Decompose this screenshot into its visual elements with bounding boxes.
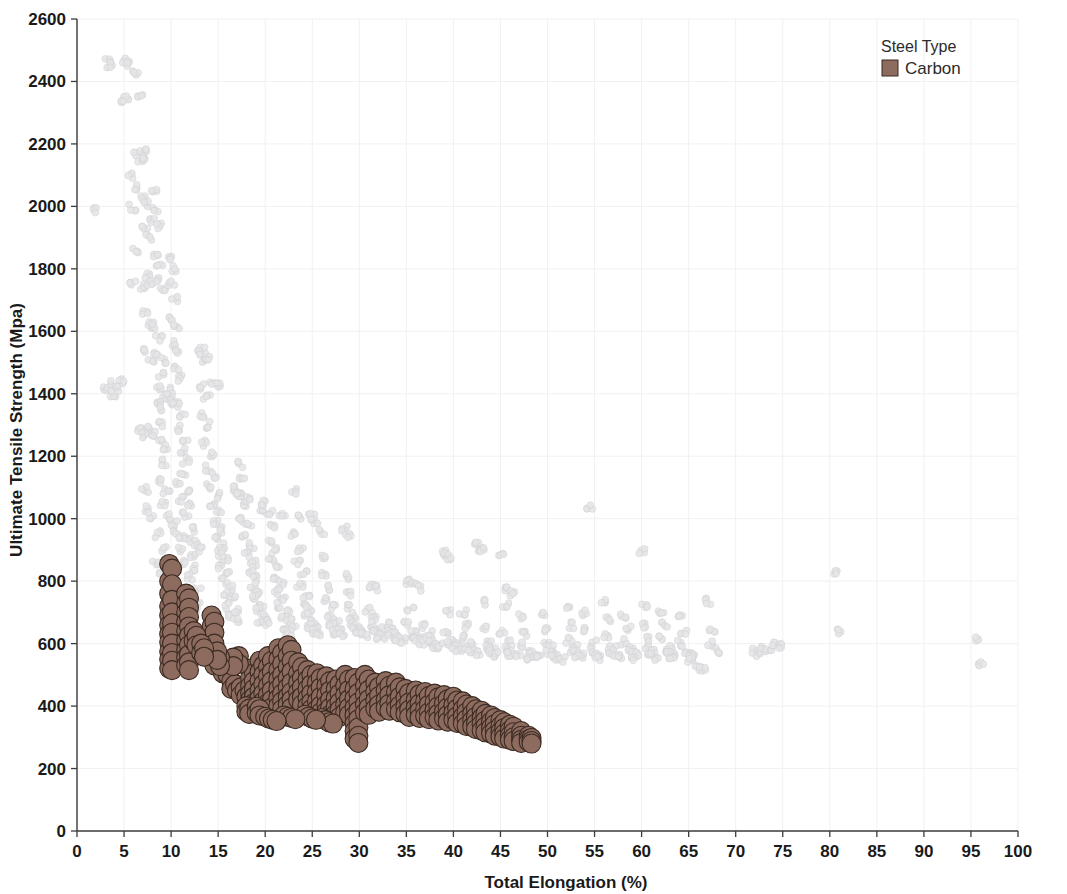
x-tick-label: 50 <box>538 842 557 861</box>
x-tick-label: 75 <box>773 842 792 861</box>
y-tick-label: 1200 <box>28 447 66 466</box>
x-tick-label: 40 <box>444 842 463 861</box>
y-tick-label: 600 <box>38 635 66 654</box>
plot-canvas: 0200400600800100012001400160018002000220… <box>0 0 1067 894</box>
legend-label-carbon: Carbon <box>905 59 961 78</box>
x-tick-label: 85 <box>867 842 886 861</box>
y-tick-label: 400 <box>38 697 66 716</box>
x-tick-label: 55 <box>585 842 604 861</box>
y-tick-label: 200 <box>38 760 66 779</box>
chart-background <box>0 0 1067 894</box>
grid-lines <box>77 19 1018 831</box>
y-axis-title: Ultimate Tensile Strength (Mpa) <box>7 303 26 557</box>
y-tick-label: 2600 <box>28 10 66 29</box>
y-tick-label: 1000 <box>28 510 66 529</box>
legend-swatch-carbon <box>882 60 898 76</box>
y-tick-label: 2400 <box>28 72 66 91</box>
y-tick-label: 800 <box>38 572 66 591</box>
x-tick-label: 15 <box>209 842 228 861</box>
x-tick-label: 10 <box>162 842 181 861</box>
y-tick-label: 2200 <box>28 135 66 154</box>
y-tick-label: 0 <box>57 822 66 841</box>
x-tick-label: 65 <box>679 842 698 861</box>
legend-title: Steel Type <box>881 38 956 55</box>
x-tick-label: 0 <box>72 842 81 861</box>
x-tick-label: 70 <box>726 842 745 861</box>
x-tick-label: 90 <box>914 842 933 861</box>
x-tick-label: 25 <box>303 842 322 861</box>
x-axis-title: Total Elongation (%) <box>484 873 647 892</box>
x-tick-label: 5 <box>119 842 128 861</box>
x-tick-label: 80 <box>820 842 839 861</box>
x-tick-label: 35 <box>397 842 416 861</box>
x-tick-label: 60 <box>632 842 651 861</box>
x-tick-label: 20 <box>256 842 275 861</box>
x-tick-label: 30 <box>350 842 369 861</box>
y-tick-label: 1600 <box>28 322 66 341</box>
x-tick-label: 45 <box>491 842 510 861</box>
x-tick-label: 100 <box>1004 842 1032 861</box>
y-tick-label: 1800 <box>28 260 66 279</box>
y-tick-label: 1400 <box>28 385 66 404</box>
legend-item-carbon[interactable]: Carbon <box>882 59 961 78</box>
scatter-chart-figure: 0200400600800100012001400160018002000220… <box>0 0 1067 894</box>
x-tick-label: 95 <box>961 842 980 861</box>
y-tick-label: 2000 <box>28 197 66 216</box>
